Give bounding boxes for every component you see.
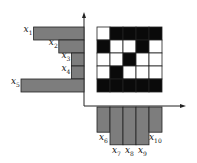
grid-cell [97, 27, 110, 40]
column-bar-x6 [97, 107, 110, 132]
row-label-x4: x4 [61, 64, 70, 75]
grid-cell [123, 40, 136, 53]
grid-cell [97, 79, 110, 92]
grid-cell [136, 53, 149, 66]
label-subscript: 2 [54, 42, 58, 49]
label-subscript: 3 [66, 55, 70, 62]
label-subscript: 5 [16, 81, 20, 88]
column-label-x7: x7 [112, 146, 121, 157]
row-label-x5: x5 [11, 77, 20, 88]
label-subscript: 4 [66, 68, 70, 75]
grid-cell [97, 53, 110, 66]
column-bar-x7 [110, 107, 123, 145]
grid-cell [97, 40, 110, 53]
grid-cell [149, 79, 162, 92]
grid-cell [123, 53, 136, 66]
grid-cell [110, 53, 123, 66]
grid-cell [123, 66, 136, 79]
row-bar-x3 [71, 53, 84, 66]
grid-cell [110, 79, 123, 92]
column-label-x6: x6 [99, 133, 108, 144]
grid-cell [149, 66, 162, 79]
grid-cell [110, 66, 123, 79]
column-label-x9: x9 [138, 146, 147, 157]
label-subscript: 1 [29, 29, 33, 36]
grid-cell [149, 53, 162, 66]
grid-cell [136, 79, 149, 92]
row-bar-x4 [71, 66, 84, 79]
grid-cell [110, 27, 123, 40]
label-subscript: 10 [154, 137, 162, 144]
label-subscript: 6 [104, 137, 108, 144]
label-subscript: 8 [130, 150, 134, 157]
column-bar-x8 [123, 107, 136, 145]
grid-cell [136, 40, 149, 53]
column-bar-x10 [149, 107, 162, 132]
row-label-x3: x3 [61, 51, 70, 62]
column-bar-x9 [136, 107, 149, 145]
label-subscript: 7 [117, 150, 121, 157]
grid-cell [123, 79, 136, 92]
row-bar-x1 [34, 27, 84, 40]
binary-grid [97, 27, 162, 92]
grid-cell [123, 27, 136, 40]
horizontal-axis-arrow-icon [180, 104, 186, 108]
row-label-x1: x1 [24, 25, 33, 36]
grid-cell [110, 40, 123, 53]
grid-cell [149, 40, 162, 53]
row-label-x2: x2 [49, 38, 58, 49]
grid-cell [149, 27, 162, 40]
grid-cell [136, 66, 149, 79]
label-subscript: 9 [143, 150, 147, 157]
grid-cell [97, 66, 110, 79]
vertical-axis-arrow-icon [82, 12, 86, 18]
column-label-x10: x10 [149, 133, 162, 144]
row-bar-x5 [21, 79, 84, 92]
column-label-x8: x8 [125, 146, 134, 157]
grid-cell [136, 27, 149, 40]
